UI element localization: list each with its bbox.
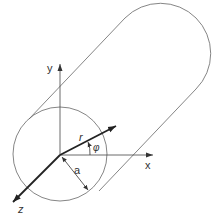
cylinder-coordinate-diagram: y x z r φ a bbox=[0, 0, 215, 219]
cylinder-far-end-arc bbox=[125, 3, 211, 89]
y-axis-label: y bbox=[47, 62, 53, 74]
r-vector-label: r bbox=[79, 131, 84, 143]
z-axis-label: z bbox=[17, 203, 24, 215]
x-axis-label: x bbox=[145, 159, 151, 171]
cylinder-outline bbox=[29, 3, 211, 191]
phi-angle-label: φ bbox=[93, 142, 100, 153]
phi-angle-arc bbox=[88, 142, 90, 155]
cylinder-top-edge bbox=[29, 18, 125, 119]
r-vector bbox=[60, 126, 116, 155]
cylinder-radius-label: a bbox=[74, 164, 81, 176]
cylinder-bottom-edge bbox=[99, 89, 196, 191]
